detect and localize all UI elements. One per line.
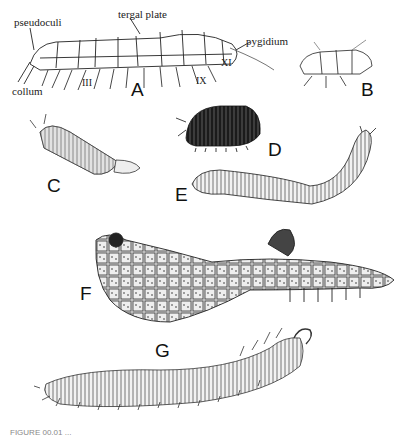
specimen-d	[176, 106, 260, 152]
label-pygidium: pygidium	[246, 36, 288, 47]
panel-letter-b: B	[361, 80, 374, 99]
panel-letter-g: G	[155, 341, 170, 360]
label-pseudoculi: pseudoculi	[14, 17, 62, 28]
label-segment-ix: IX	[196, 76, 207, 86]
panel-letter-d: D	[268, 140, 282, 159]
figure-caption: FIGURE 00.01 ...	[10, 428, 71, 435]
panel-letter-f: F	[80, 284, 92, 303]
label-tergal-plate: tergal plate	[118, 9, 167, 20]
specimen-c	[30, 114, 140, 174]
panel-letter-a: A	[131, 80, 144, 99]
specimen-a	[18, 18, 274, 90]
specimen-g	[34, 328, 311, 410]
label-collum: collum	[12, 86, 43, 97]
specimen-f	[96, 229, 394, 322]
illustration-plate	[0, 0, 406, 435]
panel-letter-e: E	[175, 185, 188, 204]
panel-letter-c: C	[47, 176, 61, 195]
label-segment-xi: XI	[221, 58, 232, 68]
label-segment-iii: III	[82, 78, 92, 88]
